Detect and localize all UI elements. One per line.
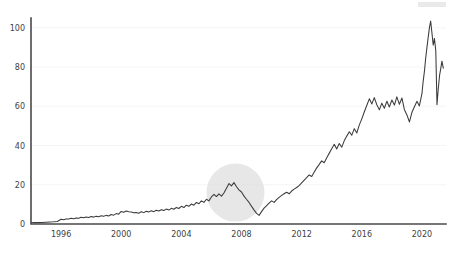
x-tick-label-2008: 2008: [231, 230, 251, 239]
y-tick-label-20: 20: [15, 181, 25, 190]
line-chart-figure: 020406080100 199620002004200820122016202…: [0, 0, 456, 253]
y-tick-label-0: 0: [20, 220, 25, 229]
x-tick-label-2000: 2000: [111, 230, 131, 239]
x-tick-label-2020: 2020: [412, 230, 432, 239]
y-tick-label-60: 60: [15, 102, 25, 111]
chart-canvas: 020406080100 199620002004200820122016202…: [0, 0, 456, 253]
y-tick-label-40: 40: [15, 142, 25, 151]
x-tick-label-1996: 1996: [51, 230, 71, 239]
x-tick-label-2012: 2012: [291, 230, 311, 239]
top-right-corner-mark: [418, 2, 446, 7]
x-tick-label-2016: 2016: [352, 230, 372, 239]
y-tick-label-100: 100: [10, 24, 25, 33]
y-tick-label-80: 80: [15, 63, 25, 72]
x-tick-label-2004: 2004: [171, 230, 191, 239]
